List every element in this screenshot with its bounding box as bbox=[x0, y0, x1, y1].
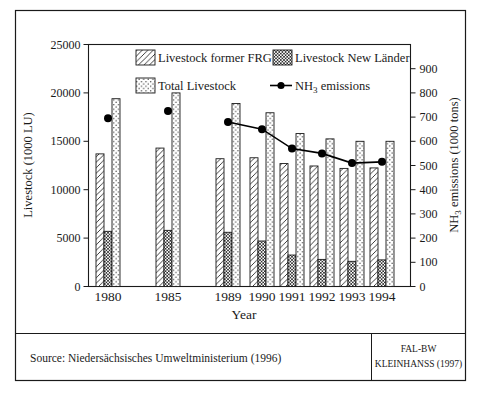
legend-swatch-checker-hatch-icon bbox=[273, 50, 292, 65]
source-note: Source: Niedersächsisches Umweltminister… bbox=[30, 352, 281, 364]
legend-item-livestock-former-frg: Livestock former FRG bbox=[136, 50, 272, 65]
bar-livestock-new-l-nder-1985 bbox=[164, 230, 172, 286]
right-axis-tick-label: 900 bbox=[420, 62, 438, 76]
legend-item-nh3-emissions: NH3 emissions bbox=[270, 79, 370, 95]
bar-livestock-former-frg-1994 bbox=[370, 168, 378, 287]
legend-item-livestock-new-l-nder: Livestock New Länder bbox=[273, 50, 410, 65]
nh3-emissions-point-1991 bbox=[288, 145, 296, 153]
x-tick-label-1993: 1993 bbox=[339, 289, 366, 304]
bar-livestock-former-frg-1989 bbox=[216, 159, 224, 287]
right-axis-tick-label: 700 bbox=[420, 110, 438, 124]
right-axis-tick-label: 600 bbox=[420, 134, 438, 148]
credit-box: FAL-BW KLEINHANSS (1997) bbox=[372, 334, 465, 380]
legend-label: Total Livestock bbox=[158, 79, 237, 93]
x-tick-label-1980: 1980 bbox=[95, 289, 122, 304]
nh3-emissions-point-1985 bbox=[164, 107, 172, 115]
bar-livestock-new-l-nder-1991 bbox=[288, 255, 296, 286]
legend-label: NH3 emissions bbox=[295, 79, 370, 95]
bar-total-livestock-1989 bbox=[232, 104, 240, 287]
left-axis-title: Livestock (1000 LU) bbox=[21, 112, 35, 218]
nh3-emissions-point-1994 bbox=[378, 158, 386, 166]
legend-label: Livestock New Länder bbox=[295, 51, 410, 65]
nh3-emissions-point-1990 bbox=[258, 125, 266, 133]
x-tick-label-1989: 1989 bbox=[215, 289, 242, 304]
right-axis-tick-label: 100 bbox=[420, 255, 438, 269]
bar-total-livestock-1985 bbox=[172, 93, 180, 287]
right-axis-tick-label: 300 bbox=[420, 207, 438, 221]
nh3-emissions-point-1989 bbox=[224, 118, 232, 126]
bar-total-livestock-1994 bbox=[386, 141, 394, 286]
left-axis-tick-label: 0 bbox=[75, 280, 81, 294]
x-axis-title: Year bbox=[232, 307, 257, 322]
bar-livestock-former-frg-1992 bbox=[310, 166, 318, 287]
nh3-emissions-point-1993 bbox=[348, 159, 356, 167]
x-tick-label-1991: 1991 bbox=[279, 289, 306, 304]
bar-total-livestock-1992 bbox=[326, 139, 334, 287]
bar-livestock-new-l-nder-1990 bbox=[258, 241, 266, 286]
nh3-emissions-point-1980 bbox=[104, 114, 112, 122]
right-axis-tick-label: 800 bbox=[420, 86, 438, 100]
x-tick-label-1994: 1994 bbox=[369, 289, 396, 304]
legend-swatch-dot-hatch-icon bbox=[136, 78, 155, 93]
bar-total-livestock-1990 bbox=[266, 113, 274, 287]
legend-item-total-livestock: Total Livestock bbox=[136, 78, 237, 93]
left-axis-tick-label: 25000 bbox=[51, 38, 81, 52]
bar-livestock-new-l-nder-1992 bbox=[318, 259, 326, 286]
bar-livestock-new-l-nder-1993 bbox=[348, 261, 356, 286]
x-tick-label-1985: 1985 bbox=[155, 289, 182, 304]
bar-livestock-former-frg-1993 bbox=[340, 168, 348, 286]
right-axis-tick-label: 200 bbox=[420, 231, 438, 245]
right-axis-tick-label: 400 bbox=[420, 183, 438, 197]
nh3-emissions-point-1992 bbox=[318, 149, 326, 157]
plot-area: 0500010000150002000025000010020030040050… bbox=[21, 38, 463, 323]
bar-total-livestock-1991 bbox=[296, 134, 304, 287]
bar-total-livestock-1980 bbox=[112, 99, 120, 287]
credit-line-1: FAL-BW bbox=[401, 342, 437, 357]
bar-livestock-new-l-nder-1989 bbox=[224, 232, 232, 286]
bar-livestock-former-frg-1990 bbox=[250, 158, 258, 287]
bar-livestock-former-frg-1991 bbox=[280, 164, 288, 287]
nh3-legend-marker-icon bbox=[277, 82, 284, 89]
x-tick-label-1992: 1992 bbox=[309, 289, 336, 304]
bar-livestock-new-l-nder-1994 bbox=[378, 260, 386, 287]
left-axis-tick-label: 15000 bbox=[51, 134, 81, 148]
bar-livestock-new-l-nder-1980 bbox=[104, 231, 112, 286]
left-axis-tick-label: 5000 bbox=[57, 231, 81, 245]
legend-label: Livestock former FRG bbox=[158, 51, 272, 65]
left-axis-tick-label: 10000 bbox=[51, 183, 81, 197]
figure-page: 0500010000150002000025000010020030040050… bbox=[0, 0, 481, 393]
x-tick-label-1990: 1990 bbox=[249, 289, 276, 304]
legend-swatch-diagonal-hatch-icon bbox=[136, 50, 155, 65]
outer-frame bbox=[16, 11, 466, 381]
bar-livestock-former-frg-1980 bbox=[96, 154, 104, 287]
credit-line-2: KLEINHANSS (1997) bbox=[375, 357, 462, 372]
right-axis-tick-label: 0 bbox=[420, 280, 426, 294]
right-axis-tick-label: 500 bbox=[420, 159, 438, 173]
left-axis-tick-label: 20000 bbox=[51, 86, 81, 100]
right-axis-title: NH3 emissions (1000 tons) bbox=[447, 97, 463, 232]
bar-livestock-former-frg-1985 bbox=[156, 148, 164, 286]
